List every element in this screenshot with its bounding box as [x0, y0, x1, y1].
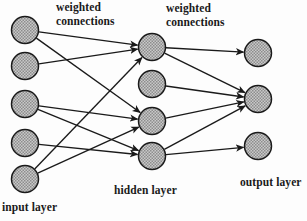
- node-input-4: [12, 130, 39, 157]
- node-input-3: [12, 91, 39, 118]
- node-output-1: [245, 40, 272, 67]
- connection-edge: [165, 53, 245, 92]
- label-weighted-connections-hidden-output: weighted connections: [166, 2, 225, 29]
- connection-edge: [164, 106, 245, 149]
- node-hidden-4: [139, 143, 166, 170]
- connection-edge: [166, 147, 244, 154]
- connection-edge: [166, 86, 244, 97]
- node-input-2: [12, 53, 39, 80]
- neural-network-diagram: weighted connections weighted connection…: [0, 0, 307, 221]
- node-hidden-1: [139, 34, 166, 61]
- node-hidden-3: [139, 108, 166, 135]
- connection-edge: [39, 32, 138, 45]
- connection-edge: [166, 48, 244, 52]
- connection-edge: [35, 57, 142, 168]
- connection-edge: [38, 109, 139, 150]
- label-hidden-layer: hidden layer: [114, 184, 177, 198]
- label-weighted-connections-input-hidden: weighted connections: [56, 1, 115, 28]
- node-output-2: [245, 86, 272, 113]
- node-input-5: [12, 166, 39, 193]
- label-output-layer: output layer: [240, 176, 302, 190]
- node-input-1: [12, 17, 39, 44]
- node-hidden-2: [139, 71, 166, 98]
- node-output-3: [245, 133, 272, 160]
- connection-edge: [166, 102, 244, 118]
- label-input-layer: input layer: [2, 201, 57, 215]
